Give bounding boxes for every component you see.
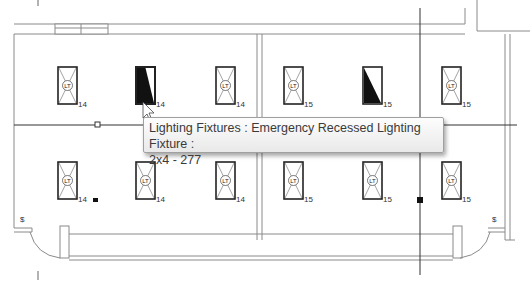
fixture-tag: 15 [383,100,392,109]
fixture-tag: 15 [304,100,313,109]
fixture-tag: 15 [383,195,392,204]
lighting-fixture[interactable]: LT15 [363,162,392,204]
svg-text:LT: LT [448,83,455,89]
svg-text:LT: LT [290,178,297,184]
fixture-tag: 14 [236,100,245,109]
fixture-tag: 15 [462,195,471,204]
panel-marker [93,198,98,202]
grid-grip-handle[interactable] [95,122,100,127]
tooltip-line-2: 2x4 - 277 [149,152,438,168]
svg-text:LT: LT [222,83,229,89]
lighting-fixture[interactable]: LT14 [58,162,87,204]
lighting-fixture[interactable]: LT14 [216,67,245,109]
svg-text:LT: LT [64,83,71,89]
fixture-tag: 14 [236,195,245,204]
fixture-tag: 14 [156,195,165,204]
svg-text:LT: LT [64,178,71,184]
fixture-tag: 14 [156,100,165,109]
svg-text:LT: LT [369,178,376,184]
fixture-tag: 14 [78,100,87,109]
switch-symbol: $ [492,215,497,224]
fixture-tag: 15 [304,195,313,204]
fixture-tag: 15 [462,100,471,109]
svg-text:LT: LT [448,178,455,184]
panel-marker [417,197,423,203]
lighting-fixture[interactable]: 15 [363,67,392,109]
lighting-fixture[interactable]: LT15 [284,162,313,204]
svg-text:LT: LT [290,83,297,89]
lighting-fixture[interactable]: LT14 [58,67,87,109]
lighting-fixture[interactable]: LT14 [136,162,165,204]
switch-symbol: $ [20,215,25,224]
lighting-fixture[interactable]: LT15 [442,162,471,204]
lighting-fixture[interactable]: LT15 [442,67,471,109]
lighting-fixture[interactable]: LT15 [284,67,313,109]
element-tooltip: Lighting Fixtures : Emergency Recessed L… [143,117,444,153]
lighting-fixture[interactable]: LT14 [216,162,245,204]
svg-text:LT: LT [222,178,229,184]
fixture-tag: 14 [78,195,87,204]
lighting-fixture[interactable]: 14 [136,67,165,109]
tooltip-line-1: Lighting Fixtures : Emergency Recessed L… [149,120,438,152]
svg-text:LT: LT [142,178,149,184]
